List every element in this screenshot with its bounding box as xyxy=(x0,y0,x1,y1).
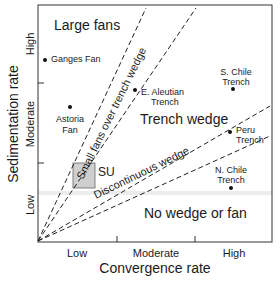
su-label: SU xyxy=(98,165,115,179)
region-large-fans: Large fans xyxy=(54,17,120,33)
label-e-aleutian-2: Trench xyxy=(151,97,179,107)
point-s-chile xyxy=(231,87,235,91)
label-e-aleutian-1: E. Aleutian xyxy=(141,87,184,97)
x-tick-high: High xyxy=(223,247,246,259)
point-e-aleutian xyxy=(133,88,137,92)
x-tick-low: Low xyxy=(67,247,87,259)
label-n-chile-2: Trench xyxy=(217,175,245,185)
y-tick-high: High xyxy=(24,33,36,56)
x-tick-moderate: Moderate xyxy=(133,247,179,259)
boundary-line-1 xyxy=(38,8,146,241)
point-ganges-fan xyxy=(43,58,47,62)
label-s-chile-1: S. Chile xyxy=(220,67,252,77)
label-s-chile-2: Trench xyxy=(222,77,250,87)
y-tick-moderate: Moderate xyxy=(24,101,36,147)
region-small-fans: Small fans over trench wedge xyxy=(74,45,148,181)
region-no-wedge: No wedge or fan xyxy=(144,205,247,221)
point-n-chile xyxy=(229,186,233,190)
point-peru xyxy=(228,130,232,134)
x-axis-label: Convergence rate xyxy=(99,260,211,276)
tectonic-diagram: Large fans Small fans over trench wedge … xyxy=(0,0,280,283)
label-astoria-fan-1: Astoria xyxy=(56,114,84,124)
label-peru-2: Trench xyxy=(236,135,264,145)
label-n-chile-1: N. Chile xyxy=(215,165,247,175)
label-ganges-fan: Ganges Fan xyxy=(51,54,101,64)
y-tick-low: Low xyxy=(24,195,36,215)
y-axis-label: Sedimentation rate xyxy=(5,65,21,183)
region-trench-wedge: Trench wedge xyxy=(140,111,228,127)
label-peru-1: Peru xyxy=(236,125,255,135)
label-astoria-fan-2: Fan xyxy=(62,125,78,135)
background-band xyxy=(38,191,272,195)
boundary-line-4 xyxy=(38,136,270,241)
point-astoria-fan xyxy=(68,105,72,109)
